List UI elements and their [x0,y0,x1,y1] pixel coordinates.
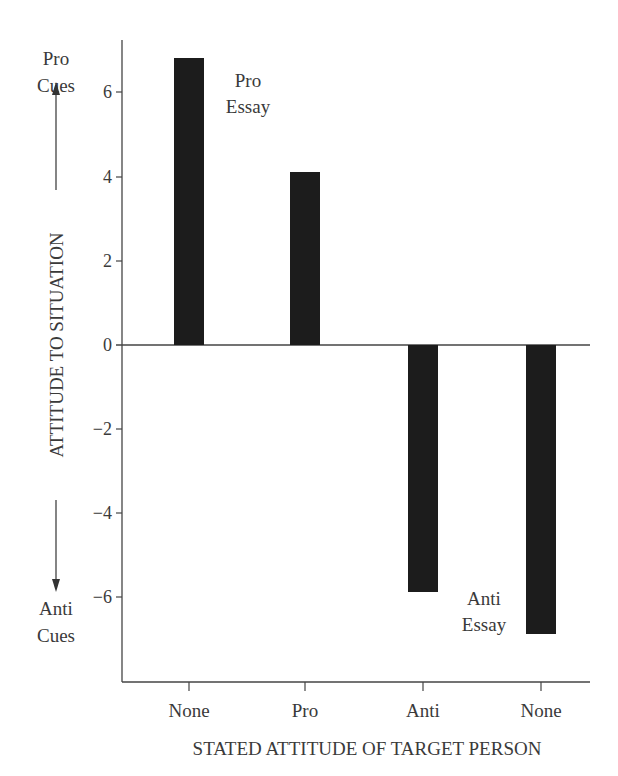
y-axis-title: ATTITUDE TO SITUATION [46,232,67,457]
x-label-none-2: None [520,700,561,721]
y-tick-2: 2 [103,251,112,271]
svg-text:Pro: Pro [235,70,261,91]
y-tick-minus-6: −6 [93,587,112,607]
y-tick-labels: 6 4 2 0 −2 −4 −6 [93,82,112,607]
svg-text:Essay: Essay [462,614,507,635]
y-axis-title-group: ATTITUDE TO SITUATION [46,82,67,592]
svg-text:Anti: Anti [39,598,73,619]
bar-chart: 6 4 2 0 −2 −4 −6 None Pro Anti None STAT… [0,0,618,776]
svg-text:Anti: Anti [467,588,501,609]
bars [174,58,556,634]
y-tick-minus-4: −4 [93,503,112,523]
bar-anti-anti-essay [408,345,438,592]
anti-cues-label: Anti Cues [37,598,75,646]
y-tick-0: 0 [103,335,112,355]
x-label-none-1: None [168,700,209,721]
bar-pro-pro-essay [290,172,320,345]
pro-essay-annotation: Pro Essay [226,70,271,117]
x-ticks [189,682,541,691]
svg-text:Pro: Pro [43,48,69,69]
svg-text:Cues: Cues [37,625,75,646]
x-tick-labels: None Pro Anti None [168,700,561,721]
arrow-down-icon [52,579,60,592]
y-tick-minus-2: −2 [93,419,112,439]
bar-none-pro-essay [174,58,204,345]
anti-essay-annotation: Anti Essay [462,588,507,635]
y-tick-4: 4 [103,167,112,187]
x-label-pro: Pro [292,700,318,721]
x-axis-title: STATED ATTITUDE OF TARGET PERSON [193,738,542,759]
x-label-anti: Anti [406,700,440,721]
y-tick-6: 6 [103,82,112,102]
svg-text:Essay: Essay [226,96,271,117]
bar-none-anti-essay [526,345,556,634]
